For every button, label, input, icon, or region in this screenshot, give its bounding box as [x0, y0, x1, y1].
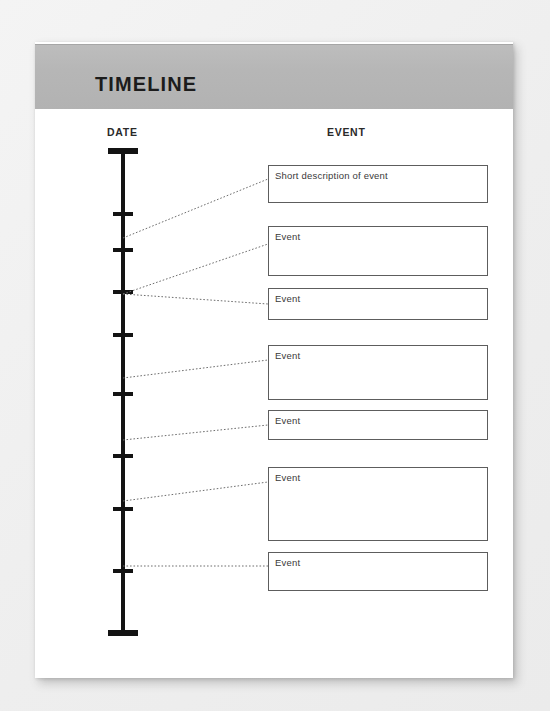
- event-box-7[interactable]: Event: [268, 552, 488, 591]
- event-box-label: Event: [275, 472, 300, 483]
- connector-1: [123, 179, 268, 238]
- timeline-worksheet-page: TIMELINE DATE EVENT Short description of…: [35, 42, 513, 678]
- event-box-label: Short description of event: [275, 170, 388, 181]
- event-box-label: Event: [275, 231, 300, 242]
- connector-6: [123, 482, 268, 501]
- connector-4: [123, 360, 268, 378]
- connector-2: [123, 244, 268, 294]
- event-box-3[interactable]: Event: [268, 288, 488, 320]
- event-box-4[interactable]: Event: [268, 345, 488, 400]
- event-box-label: Event: [275, 415, 300, 426]
- connector-3: [123, 294, 268, 304]
- event-box-label: Event: [275, 557, 300, 568]
- event-box-label: Event: [275, 293, 300, 304]
- page-background: TIMELINE DATE EVENT Short description of…: [0, 0, 550, 711]
- event-box-5[interactable]: Event: [268, 410, 488, 440]
- event-box-1[interactable]: Short description of event: [268, 165, 488, 203]
- event-box-6[interactable]: Event: [268, 467, 488, 541]
- event-box-2[interactable]: Event: [268, 226, 488, 276]
- connector-5: [123, 425, 268, 440]
- event-box-label: Event: [275, 350, 300, 361]
